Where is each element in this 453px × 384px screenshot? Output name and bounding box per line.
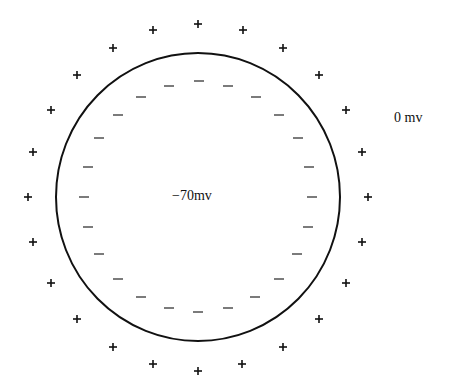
plus-charge-icon: [73, 71, 81, 79]
plus-charge-icon: [194, 367, 202, 375]
plus-charge-icon: [342, 279, 350, 287]
plus-charge-icon: [239, 26, 247, 34]
plus-charge-icon: [47, 106, 55, 114]
plus-charge-icon: [279, 44, 287, 52]
plus-charge-icon: [358, 148, 366, 156]
plus-charge-icon: [238, 360, 246, 368]
plus-charge-icon: [149, 26, 157, 34]
inside-potential-label: −70mv: [172, 188, 212, 204]
plus-charge-icon: [364, 193, 372, 201]
plus-charge-icon: [109, 44, 117, 52]
plus-charge-icon: [73, 315, 81, 323]
plus-charge-icon: [194, 20, 202, 28]
plus-charge-icon: [149, 360, 157, 368]
outside-potential-label: 0 mv: [394, 110, 422, 126]
plus-charge-icon: [315, 71, 323, 79]
plus-charge-icon: [358, 238, 366, 246]
plus-charge-icon: [29, 148, 37, 156]
plus-charge-icon: [279, 343, 287, 351]
plus-charge-icon: [29, 238, 37, 246]
plus-charge-icon: [342, 106, 350, 114]
plus-charge-icon: [47, 279, 55, 287]
membrane-potential-diagram: [0, 0, 453, 384]
plus-charge-icon: [109, 343, 117, 351]
plus-charge-icon: [315, 315, 323, 323]
plus-charge-icon: [24, 193, 32, 201]
